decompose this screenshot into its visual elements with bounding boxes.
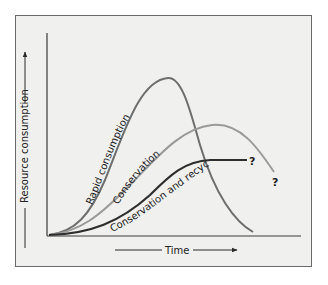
label-conservation-and-recycling: Conservation and recycling xyxy=(0,0,211,234)
recycling-end-marker: ? xyxy=(249,155,255,168)
curve-conservation-and-recycling xyxy=(49,160,247,235)
y-axis-label-group: Resource consumption xyxy=(19,52,30,248)
x-axis-label-group: Time xyxy=(115,245,237,256)
conservation-end-marker: ? xyxy=(272,176,278,189)
y-axis-label: Resource consumption xyxy=(19,89,30,203)
x-axis-label: Time xyxy=(164,245,189,256)
chart-svg: Resource consumption Time ? ? Rapid cons… xyxy=(0,0,328,285)
